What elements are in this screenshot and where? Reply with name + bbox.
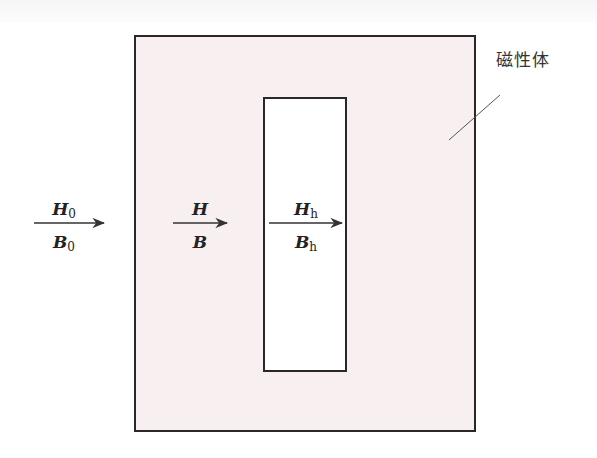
field-label-body: H B: [176, 198, 224, 258]
leader-line: [449, 95, 500, 140]
field-label-hole: Hh Bh: [278, 198, 334, 258]
field-label-outside: H0 B0: [36, 198, 92, 258]
magnetic-body-label: 磁性体: [496, 46, 550, 71]
